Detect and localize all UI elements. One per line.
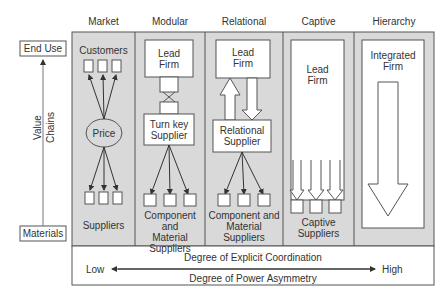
modular-lead-firm-label: Lead Firm: [145, 48, 193, 70]
chains-label: Chains: [45, 108, 56, 148]
column-title-relational: Relational: [205, 16, 283, 27]
value-label: Value: [32, 108, 43, 148]
relational-component-suppliers-label: Component and Material Suppliers: [205, 210, 283, 243]
relational-lead-firm-label: Lead Firm: [216, 47, 270, 69]
power-asymmetry-label: Degree of Power Asymmetry: [72, 273, 434, 284]
column-title-modular: Modular: [135, 16, 205, 27]
modular-turnkey-supplier-label: Turn key Supplier: [144, 119, 194, 141]
captive-lead-firm-label: Lead Firm: [291, 64, 344, 86]
market-customers-label: Customers: [72, 45, 135, 56]
materials-label: Materials: [20, 228, 66, 239]
column-title-captive: Captive: [283, 16, 354, 27]
modular-component-suppliers-label: Component and Material Suppliers: [135, 210, 205, 254]
hierarchy-integrated-firm-label: Integrated Firm: [362, 50, 424, 72]
explicit-coordination-label: Degree of Explicit Coordination: [72, 252, 434, 263]
end-use-label: End Use: [20, 43, 66, 54]
market-price-label: Price: [86, 128, 122, 139]
relational-supplier-label: Relational Supplier: [213, 125, 271, 147]
column-title-market: Market: [72, 16, 135, 27]
column-title-hierarchy: Hierarchy: [354, 16, 434, 27]
captive-suppliers-label: Captive Suppliers: [283, 217, 354, 239]
market-suppliers-label: Suppliers: [72, 220, 135, 231]
